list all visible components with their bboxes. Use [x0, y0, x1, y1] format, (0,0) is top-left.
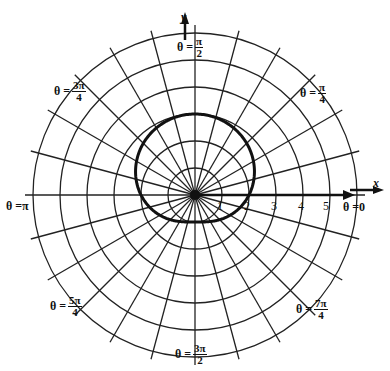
x-tick-2: 2 [244, 199, 250, 214]
angle-label-5pi-4: θ = 5π4 [50, 295, 82, 318]
polar-axis-arrowhead-icon [343, 190, 355, 200]
x-axis-label: x [373, 176, 379, 191]
grid-ray [110, 48, 195, 195]
grid-ray [48, 110, 195, 195]
grid-ray [110, 195, 195, 342]
angle-label-pi: θ = π [6, 199, 29, 214]
grid-ray [31, 195, 195, 239]
grid-ray [31, 151, 195, 195]
angle-label-pi-4: θ = π4 [300, 82, 326, 105]
angle-label-0: θ = 0 [343, 200, 365, 215]
angle-label-7pi-4: θ = 7π4 [296, 298, 328, 321]
x-tick-5: 5 [323, 199, 329, 214]
grid-ray [195, 48, 280, 195]
y-axis-label: y [181, 10, 186, 25]
angle-label-pi-2: θ = π2 [177, 36, 203, 59]
grid-ray [195, 151, 359, 195]
grid-ray [195, 110, 342, 195]
x-tick-3: 3 [271, 199, 277, 214]
grid-ray [75, 195, 195, 315]
angle-label-3pi-2: θ = 3π2 [175, 343, 207, 366]
angle-label-3pi-4: θ = 3π4 [54, 80, 86, 103]
x-tick-1: 1 [217, 199, 223, 214]
grid-ray [48, 195, 195, 280]
x-tick-4: 4 [298, 199, 304, 214]
grid-ray [195, 195, 280, 342]
pole-dot [190, 190, 200, 200]
